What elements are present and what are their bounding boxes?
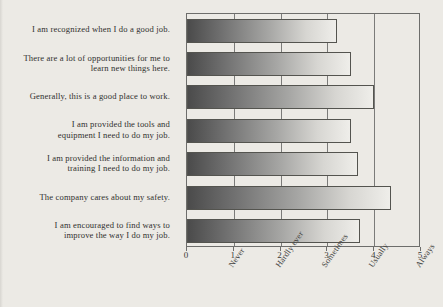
bar[interactable] (187, 85, 374, 109)
bar[interactable] (187, 186, 391, 210)
bar-row (187, 114, 421, 147)
category-label-line: I am provided the information and (0, 153, 170, 164)
category-label-line: improve the way I do my job. (0, 230, 170, 241)
category-label-line: I am recognized when I do a good job. (0, 24, 170, 35)
category-label: I am encouraged to find ways toimprove t… (0, 220, 170, 241)
bar-row (187, 181, 421, 214)
category-label-line: training I need to do my job. (0, 163, 170, 174)
category-label-line: I am encouraged to find ways to (0, 220, 170, 231)
bar-row (187, 47, 421, 80)
x-tick-label: 0 (176, 250, 196, 260)
category-label: Generally, this is a good place to work. (0, 91, 170, 102)
category-label-line: There are a lot of opportunities for me … (0, 53, 170, 64)
plot-area (186, 13, 420, 247)
bar[interactable] (187, 52, 351, 76)
category-label-line: The company cares about my safety. (0, 192, 170, 203)
bar-row (187, 81, 421, 114)
category-label: The company cares about my safety. (0, 192, 170, 203)
category-label-line: learn new things here. (0, 63, 170, 74)
category-label: I am provided the tools andequipment I n… (0, 119, 170, 140)
bar[interactable] (187, 219, 360, 243)
bar-row (187, 148, 421, 181)
category-label-line: equipment I need to do my job. (0, 130, 170, 141)
bar[interactable] (187, 119, 351, 143)
bar[interactable] (187, 152, 358, 176)
category-label: I am provided the information andtrainin… (0, 153, 170, 174)
bar-chart: I am recognized when I do a good job.The… (0, 0, 443, 307)
category-label: I am recognized when I do a good job. (0, 24, 170, 35)
bar[interactable] (187, 19, 337, 43)
category-label-line: Generally, this is a good place to work. (0, 91, 170, 102)
category-label: There are a lot of opportunities for me … (0, 53, 170, 74)
bar-row (187, 14, 421, 47)
category-label-line: I am provided the tools and (0, 119, 170, 130)
category-axis-labels: I am recognized when I do a good job.The… (0, 13, 180, 247)
x-axis: 012345NeverHardly everSometimesUsuallyAl… (186, 247, 420, 307)
